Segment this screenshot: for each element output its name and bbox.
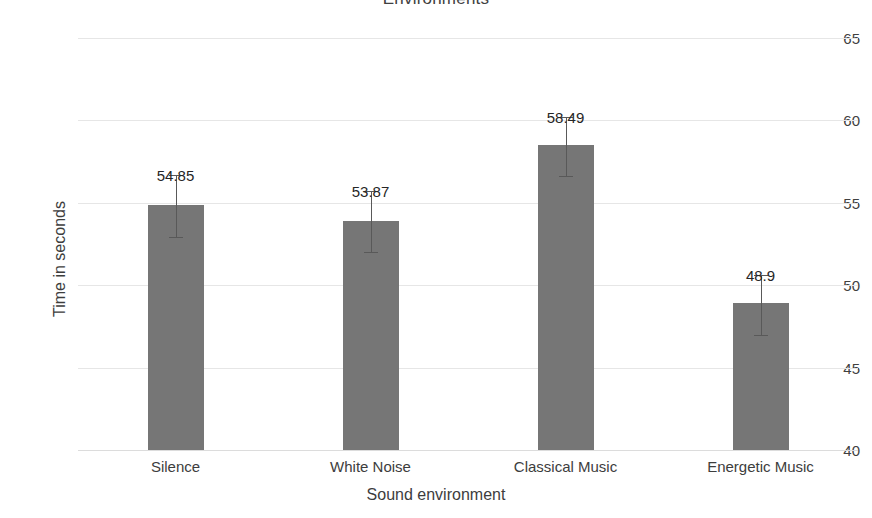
bar-value-label: 53.87 — [352, 183, 390, 200]
x-axis-tick-label: Energetic Music — [707, 458, 814, 475]
x-axis-title: Sound environment — [0, 486, 872, 504]
x-axis-tick-label: White Noise — [330, 458, 411, 475]
gridline — [78, 450, 858, 451]
error-bar-cap-lower — [754, 335, 768, 336]
y-axis-title: Time in seconds — [51, 201, 69, 317]
error-bar-cap-lower — [169, 237, 183, 238]
x-axis-tick-label: Silence — [151, 458, 200, 475]
gridline — [78, 120, 858, 121]
gridline — [78, 38, 858, 39]
error-bar-cap-lower — [364, 252, 378, 253]
bar-value-label: 54.85 — [157, 167, 195, 184]
bar — [148, 205, 204, 450]
error-bar-line — [371, 191, 372, 252]
plot-area — [78, 38, 858, 450]
bar — [538, 145, 594, 450]
chart-title: Environments — [0, 0, 872, 9]
bar — [343, 221, 399, 450]
bar-chart: Environments Time in seconds 40455055606… — [0, 0, 872, 518]
error-bar-line — [176, 175, 177, 238]
x-axis-tick-label: Classical Music — [514, 458, 617, 475]
gridline — [78, 203, 858, 204]
error-bar-cap-lower — [559, 176, 573, 177]
bar-value-label: 58.49 — [547, 109, 585, 126]
bar-value-label: 48.9 — [746, 267, 775, 284]
